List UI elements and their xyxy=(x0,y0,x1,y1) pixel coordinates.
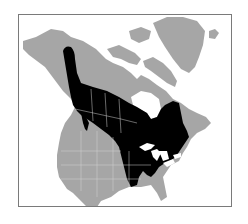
map-frame xyxy=(18,14,232,207)
land-ellesmere xyxy=(129,27,151,43)
range-map xyxy=(19,15,232,207)
land-arctic-archipelago xyxy=(107,45,141,65)
land-iceland xyxy=(209,29,219,39)
